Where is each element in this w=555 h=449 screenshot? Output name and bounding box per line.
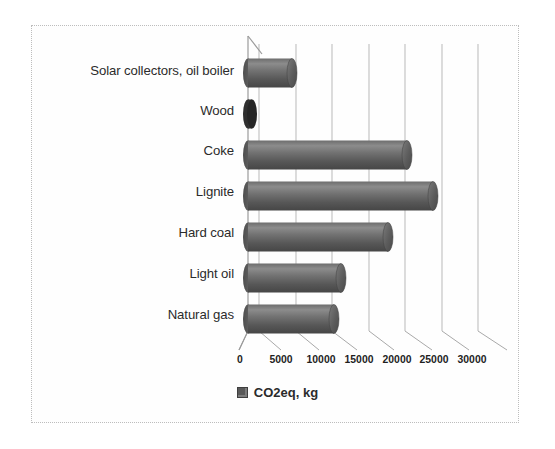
value-tick-30000: 30000	[458, 355, 487, 365]
gridlines-floor-perspective	[239, 331, 507, 350]
value-tick-20000: 20000	[383, 355, 412, 365]
chart-legend: CO2eq, kg	[0, 386, 555, 399]
bar-coke[interactable]	[243, 141, 412, 170]
legend-square-icon	[237, 387, 248, 398]
bar-lignite[interactable]	[243, 182, 438, 211]
value-tick-10000: 10000	[307, 355, 336, 365]
bar-chart-3d: Solar collectors, oil boiler Wood Coke L…	[0, 0, 555, 449]
value-tick-25000: 25000	[420, 355, 449, 365]
bar-hard-coal[interactable]	[243, 223, 393, 252]
value-tick-5000: 5000	[269, 355, 292, 365]
bar-natural-gas[interactable]	[243, 305, 339, 334]
bar-solar-collectors-oil-boiler[interactable]	[243, 59, 297, 88]
bar-light-oil[interactable]	[243, 264, 346, 293]
value-tick-0: 0	[237, 355, 243, 365]
legend-label: CO2eq, kg	[254, 386, 318, 399]
value-tick-15000: 15000	[345, 355, 374, 365]
plot-svg	[0, 0, 555, 449]
bar-wood[interactable]	[243, 100, 257, 129]
